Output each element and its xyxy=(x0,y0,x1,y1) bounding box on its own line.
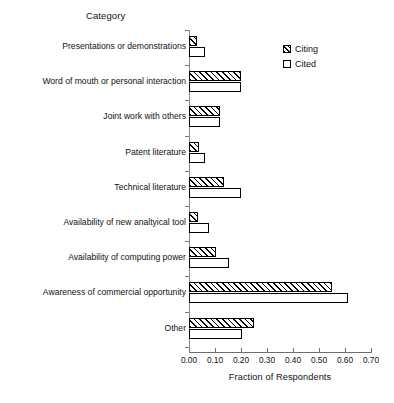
x-axis-tick-label: 0.50 xyxy=(306,355,332,365)
x-axis-tick-label: 0.20 xyxy=(228,355,254,365)
bar-cited xyxy=(189,117,220,127)
bar-group xyxy=(189,318,371,340)
x-axis-title: Fraction of Respondents xyxy=(189,372,371,382)
x-axis-tick-label: 0.30 xyxy=(254,355,280,365)
bar-chart: Category Fraction of Respondents Citing … xyxy=(0,0,394,403)
category-label: Other xyxy=(0,323,186,333)
bar-cited xyxy=(189,258,229,268)
legend-label-citing: Citing xyxy=(295,44,318,54)
x-axis-line xyxy=(189,352,371,353)
category-label: Joint work with others xyxy=(0,111,186,121)
bar-cited xyxy=(189,82,241,92)
bar-cited xyxy=(189,47,205,57)
legend-item-cited: Cited xyxy=(283,57,318,70)
bar-citing xyxy=(189,177,224,187)
x-axis-tick xyxy=(189,348,190,353)
legend-item-citing: Citing xyxy=(283,42,318,55)
bar-cited xyxy=(189,153,205,163)
category-label: Availability of computing power xyxy=(0,252,186,262)
plot-area xyxy=(189,30,371,352)
bar-group xyxy=(189,212,371,234)
bar-citing xyxy=(189,71,241,81)
y-axis-tick xyxy=(185,312,189,313)
bar-citing xyxy=(189,106,220,116)
category-label: Availability of new analtyical tool xyxy=(0,217,186,227)
x-axis-tick-label: 0.00 xyxy=(176,355,202,365)
bar-citing xyxy=(189,318,254,328)
x-axis-tick-label: 0.60 xyxy=(332,355,358,365)
bar-group xyxy=(189,71,371,93)
category-label: Technical literature xyxy=(0,182,186,192)
legend-swatch-citing-icon xyxy=(283,45,291,53)
legend-label-cited: Cited xyxy=(295,59,316,69)
x-axis-tick xyxy=(215,348,216,353)
x-axis-tick-label: 0.10 xyxy=(202,355,228,365)
bar-citing xyxy=(189,36,197,46)
y-axis-tick xyxy=(185,30,189,31)
category-label: Presentations or demonstrations xyxy=(0,41,186,51)
bar-cited xyxy=(189,293,348,303)
y-axis-tick xyxy=(185,276,189,277)
legend-swatch-cited-icon xyxy=(283,60,291,68)
category-label: Patent literature xyxy=(0,147,186,157)
y-axis-tick xyxy=(185,100,189,101)
bar-group xyxy=(189,36,371,58)
x-axis-tick xyxy=(319,348,320,353)
legend: Citing Cited xyxy=(283,42,318,72)
x-axis-tick xyxy=(241,348,242,353)
y-axis-tick xyxy=(185,136,189,137)
y-axis-tick xyxy=(185,347,189,348)
x-axis-tick xyxy=(267,348,268,353)
y-axis-tick xyxy=(185,241,189,242)
bar-cited xyxy=(189,188,241,198)
bar-group xyxy=(189,247,371,269)
bar-cited xyxy=(189,329,242,339)
y-axis-tick xyxy=(185,65,189,66)
x-axis-tick xyxy=(293,348,294,353)
category-label: Awareness of commercial opportunity xyxy=(0,287,186,297)
y-axis-tick xyxy=(185,171,189,172)
x-axis-tick-label: 0.40 xyxy=(280,355,306,365)
bar-group xyxy=(189,282,371,304)
bar-group xyxy=(189,142,371,164)
x-axis-tick-label: 0.70 xyxy=(358,355,384,365)
y-axis-title: Category xyxy=(86,10,125,21)
bar-citing xyxy=(189,247,216,257)
bar-cited xyxy=(189,223,209,233)
x-axis-tick xyxy=(371,348,372,353)
bar-group xyxy=(189,106,371,128)
category-label: Word of mouth or personal interaction xyxy=(0,76,186,86)
bar-citing xyxy=(189,212,198,222)
x-axis-tick xyxy=(345,348,346,353)
bar-group xyxy=(189,177,371,199)
bar-citing xyxy=(189,142,199,152)
bar-citing xyxy=(189,282,332,292)
y-axis-tick xyxy=(185,206,189,207)
